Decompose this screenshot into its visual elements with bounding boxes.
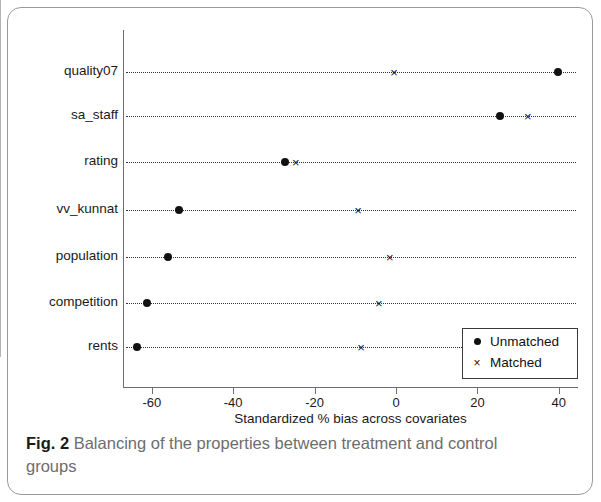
data-point-matched: × xyxy=(384,251,395,262)
legend-label-matched: Matched xyxy=(490,355,542,370)
x-tick-label: 20 xyxy=(455,395,499,410)
y-axis-category-label: rating xyxy=(84,153,118,168)
data-point-unmatched xyxy=(554,68,562,76)
x-tick-label: -60 xyxy=(130,395,174,410)
figure-caption-text: Balancing of the properties between trea… xyxy=(26,434,497,475)
chart-category-row: vv_kunnat× xyxy=(0,210,601,211)
data-point-unmatched xyxy=(164,253,172,261)
data-point-matched: × xyxy=(353,205,364,216)
data-point-matched: × xyxy=(388,66,399,77)
x-axis-title: Standardized % bias across covariates xyxy=(123,411,578,426)
legend-item-unmatched[interactable]: Unmatched xyxy=(471,334,559,349)
category-gridline xyxy=(126,303,576,304)
data-point-matched: × xyxy=(373,297,384,308)
y-axis-category-label: vv_kunnat xyxy=(56,201,118,216)
chart-plot-area: quality07×sa_staff×rating×vv_kunnat×popu… xyxy=(0,0,601,400)
data-point-unmatched xyxy=(175,206,183,214)
data-point-unmatched xyxy=(143,299,151,307)
data-point-matched: × xyxy=(290,157,301,168)
data-point-matched: × xyxy=(522,111,533,122)
cross-x-icon: × xyxy=(471,357,483,369)
chart-category-row: quality07× xyxy=(0,72,601,73)
figure-container: quality07×sa_staff×rating×vv_kunnat×popu… xyxy=(0,0,601,502)
x-tick-mark xyxy=(152,388,153,394)
chart-category-row: rating× xyxy=(0,162,601,163)
filled-circle-icon xyxy=(471,336,483,348)
x-tick-label: -40 xyxy=(211,395,255,410)
figure-caption: Fig. 2 Balancing of the properties betwe… xyxy=(26,432,526,479)
chart-category-row: population× xyxy=(0,257,601,258)
x-axis-line xyxy=(123,387,578,388)
x-tick-mark xyxy=(396,388,397,394)
x-tick-mark xyxy=(233,388,234,394)
category-gridline xyxy=(126,210,576,211)
chart-legend: Unmatched × Matched xyxy=(462,328,578,379)
data-point-unmatched xyxy=(281,158,289,166)
x-tick-label: 0 xyxy=(374,395,418,410)
x-tick-mark xyxy=(315,388,316,394)
x-tick-mark xyxy=(477,388,478,394)
legend-label-unmatched: Unmatched xyxy=(490,334,559,349)
category-gridline xyxy=(126,116,576,117)
figure-caption-label: Fig. 2 xyxy=(26,434,69,452)
legend-item-matched[interactable]: × Matched xyxy=(471,355,542,370)
data-point-matched: × xyxy=(355,342,366,353)
chart-category-row: competition× xyxy=(0,303,601,304)
y-axis-category-label: population xyxy=(56,248,118,263)
x-tick-label: -20 xyxy=(293,395,337,410)
category-gridline xyxy=(126,72,576,73)
y-axis-category-label: competition xyxy=(49,294,118,309)
chart-category-row: sa_staff× xyxy=(0,116,601,117)
y-axis-category-label: sa_staff xyxy=(71,107,118,122)
y-axis-category-label: quality07 xyxy=(64,63,118,78)
data-point-unmatched xyxy=(496,112,504,120)
data-point-unmatched xyxy=(133,343,141,351)
y-axis-line xyxy=(123,30,124,388)
category-gridline xyxy=(126,162,576,163)
x-tick-label: 40 xyxy=(537,395,581,410)
y-axis-category-label: rents xyxy=(88,338,118,353)
x-tick-mark xyxy=(559,388,560,394)
category-gridline xyxy=(126,257,576,258)
